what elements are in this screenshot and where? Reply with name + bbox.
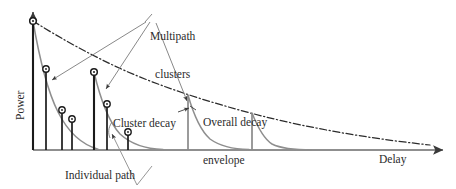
path-marker-dot bbox=[127, 131, 129, 133]
x-axis-label: Delay bbox=[379, 153, 406, 166]
figure-canvas: Power Delay Multipath clusters Overall d… bbox=[0, 0, 456, 189]
multipath-clusters-label-line2: clusters bbox=[150, 68, 195, 81]
overall-decay-envelope-label-line2: envelope bbox=[203, 154, 267, 167]
overall-decay-envelope-label: Overall decay envelope bbox=[203, 91, 267, 189]
path-marker-dot bbox=[32, 20, 34, 22]
y-axis-label: Power bbox=[14, 91, 27, 120]
multipath-clusters-label: Multipath clusters bbox=[150, 5, 195, 105]
path-marker-dot bbox=[106, 103, 108, 105]
path-marker-dot bbox=[71, 118, 73, 120]
leader-line-individual-path-tail bbox=[137, 166, 152, 185]
multipath-clusters-label-line1: Multipath bbox=[150, 30, 195, 43]
leader-line-to-cluster-1 bbox=[52, 22, 146, 80]
cluster-decay-label: Cluster decay bbox=[113, 117, 176, 130]
path-marker-dot bbox=[45, 68, 47, 70]
individual-path-label: Individual path bbox=[65, 169, 135, 182]
path-marker-dot bbox=[61, 109, 63, 111]
overall-decay-envelope-label-line1: Overall decay bbox=[203, 116, 267, 129]
path-marker-dot bbox=[93, 71, 95, 73]
